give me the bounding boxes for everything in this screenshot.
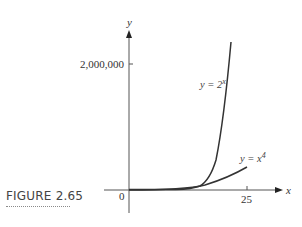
x-tick-label: 25 bbox=[241, 193, 253, 205]
curve-x-power-4 bbox=[129, 167, 247, 190]
y-axis-arrow-icon bbox=[126, 30, 132, 38]
x-axis-label: x bbox=[285, 184, 291, 196]
x-axis-arrow-icon bbox=[275, 187, 283, 193]
y-tick-label: 2,000,000 bbox=[80, 58, 125, 70]
figure-caption: FIGURE 2.65 bbox=[6, 189, 83, 203]
caption-underline bbox=[6, 206, 70, 207]
y-axis-label: y bbox=[126, 16, 132, 28]
curve-2-power-x-label: y = 2x bbox=[199, 77, 226, 90]
curve-x-power-4-label: y = x4 bbox=[239, 151, 266, 164]
curve-2-power-x bbox=[129, 42, 231, 190]
origin-label: 0 bbox=[119, 190, 125, 202]
